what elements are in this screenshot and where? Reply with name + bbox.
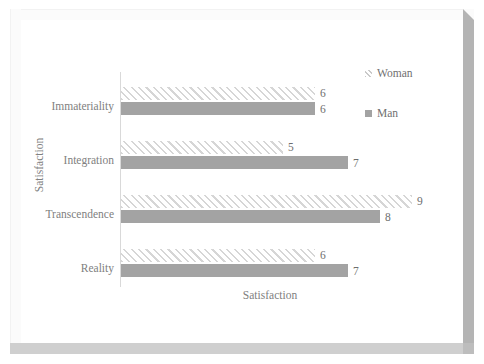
data-label-integration-woman: 5 [288, 141, 294, 153]
data-label-reality-woman: 6 [320, 249, 326, 261]
category-label-immateriality: Immateriality [10, 100, 114, 112]
figure-frame: Satisfaction Satisfaction Immateriality … [10, 9, 474, 354]
legend-item-woman[interactable]: Woman [365, 67, 412, 79]
data-label-transcendence-man: 8 [385, 211, 391, 223]
bar-immateriality-woman[interactable] [121, 87, 315, 100]
legend-label-woman: Woman [377, 67, 412, 79]
data-label-integration-man: 7 [353, 157, 359, 169]
data-label-immateriality-woman: 6 [320, 87, 326, 99]
category-label-reality: Reality [10, 262, 114, 274]
bar-reality-man[interactable] [121, 264, 348, 277]
bar-reality-woman[interactable] [121, 249, 315, 262]
legend-item-man[interactable]: Man [365, 107, 398, 119]
bar-transcendence-man[interactable] [121, 210, 380, 223]
bar-chart: Satisfaction Satisfaction Immateriality … [10, 9, 474, 354]
bar-immateriality-man[interactable] [121, 102, 315, 115]
solid-swatch-icon [365, 110, 372, 117]
bar-integration-man[interactable] [121, 156, 348, 169]
x-axis-title: Satisfaction [180, 289, 360, 301]
hatched-swatch-icon [365, 70, 372, 77]
legend-label-man: Man [377, 107, 398, 119]
data-label-reality-man: 7 [353, 265, 359, 277]
category-label-integration: Integration [10, 154, 114, 166]
bar-transcendence-woman[interactable] [121, 195, 412, 208]
data-label-immateriality-man: 6 [320, 103, 326, 115]
data-label-transcendence-woman: 9 [417, 195, 423, 207]
bar-integration-woman[interactable] [121, 141, 283, 154]
category-label-transcendence: Transcendence [10, 208, 114, 220]
